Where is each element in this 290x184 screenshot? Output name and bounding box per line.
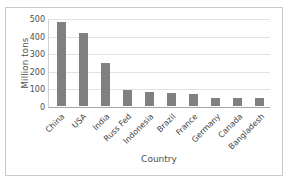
bar xyxy=(101,63,110,106)
bar-slot xyxy=(94,19,116,106)
x-tick-slot: China xyxy=(49,109,71,157)
bar-slot xyxy=(160,19,182,106)
bar-slot xyxy=(50,19,72,106)
bar xyxy=(79,33,88,106)
y-tick-label: 400 xyxy=(30,32,45,41)
bar xyxy=(123,90,132,106)
bar xyxy=(145,92,154,106)
bar-slot xyxy=(72,19,94,106)
bar-slot xyxy=(226,19,248,106)
gridline xyxy=(49,107,270,108)
bar-slot xyxy=(182,19,204,106)
y-tick-label: 0 xyxy=(40,103,45,112)
bar-slot xyxy=(116,19,138,106)
x-axis-title: Country xyxy=(48,154,270,164)
bar xyxy=(167,93,176,106)
plot-area: 0100200300400500 Million tons xyxy=(48,19,270,108)
y-tick-label: 100 xyxy=(30,85,45,94)
bar-slot xyxy=(138,19,160,106)
bar xyxy=(233,98,242,106)
bar xyxy=(255,98,264,106)
x-tick-labels: ChinaUSAIndiaRuss FedIndonesiaBrazilFran… xyxy=(49,109,271,157)
bar-slot xyxy=(248,19,270,106)
x-tick-slot: Bangladesh xyxy=(249,109,271,157)
x-tick-slot: Indonesia xyxy=(138,109,160,157)
bar xyxy=(211,98,220,106)
x-tick-label: China xyxy=(44,112,67,135)
y-tick-label: 200 xyxy=(30,67,45,76)
y-axis-title: Million tons xyxy=(20,38,30,89)
chart-frame: 0100200300400500 Million tons ChinaUSAIn… xyxy=(5,7,283,176)
y-tick-label: 300 xyxy=(30,50,45,59)
bar-series xyxy=(50,19,270,106)
x-tick-slot: USA xyxy=(71,109,93,157)
x-tick-label: USA xyxy=(71,112,89,130)
bar xyxy=(57,22,66,106)
bar xyxy=(189,94,198,106)
y-tick-label: 500 xyxy=(30,15,45,24)
bar-slot xyxy=(204,19,226,106)
